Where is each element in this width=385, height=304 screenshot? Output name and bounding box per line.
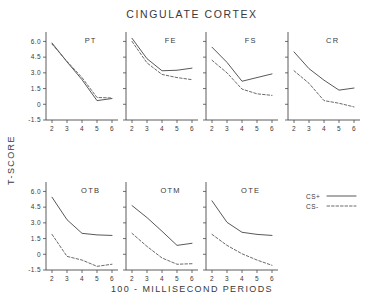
panel-axes: [46, 32, 118, 120]
x-tick-label: 4: [240, 125, 244, 132]
x-tick-label: 6: [110, 125, 114, 132]
panel-axes: [46, 182, 118, 270]
x-axis-label: 100 - MILLISECOND PERIODS: [111, 284, 273, 294]
series-line-CSplus: [132, 206, 192, 246]
x-tick-label: 4: [322, 125, 326, 132]
x-tick-label: 3: [145, 275, 149, 282]
y-tick-label: 3.0: [31, 69, 41, 76]
x-tick-label: 6: [110, 275, 114, 282]
panel-title: PT: [85, 36, 97, 45]
x-tick-label: 6: [190, 125, 194, 132]
x-tick-label: 2: [50, 125, 54, 132]
x-tick-label: 6: [270, 125, 274, 132]
x-tick-label: 2: [130, 275, 134, 282]
y-tick-label: 6.0: [31, 38, 41, 45]
x-tick-label: 3: [65, 125, 69, 132]
legend-label: CS+: [306, 193, 320, 200]
chart-legend: CS+CS-: [306, 193, 356, 210]
panel-otb: -1.501.53.04.56.023456OTB: [28, 182, 118, 282]
y-tick-label: 4.5: [31, 203, 41, 210]
series-line-CSminus: [212, 234, 272, 265]
y-tick-label: 4.5: [31, 53, 41, 60]
series-line-CSplus: [52, 43, 112, 101]
x-tick-label: 3: [225, 125, 229, 132]
panel-axes: [126, 182, 198, 270]
x-tick-label: 3: [145, 125, 149, 132]
series-line-CSminus: [132, 41, 192, 79]
panel-axes: [288, 32, 360, 120]
y-tick-label: 6.0: [31, 188, 41, 195]
series-line-CSminus: [52, 234, 112, 266]
x-tick-label: 2: [210, 275, 214, 282]
y-tick-label: -1.5: [28, 116, 41, 123]
panel-title: OTM: [161, 186, 181, 195]
panel-title: CR: [326, 36, 339, 45]
panel-fs: 23456FS: [203, 32, 278, 132]
x-tick-label: 4: [160, 275, 164, 282]
panel-axes: [206, 32, 278, 120]
panel-title: FE: [165, 36, 177, 45]
series-line-CSplus: [52, 197, 112, 235]
x-tick-label: 5: [337, 125, 341, 132]
x-tick-label: 2: [50, 275, 54, 282]
x-tick-label: 5: [255, 125, 259, 132]
panels-layer: -1.501.53.04.56.023456PT23456FE23456FS23…: [28, 32, 360, 282]
panel-title: OTE: [241, 186, 260, 195]
x-tick-label: 5: [175, 275, 179, 282]
y-axis-label: T-SCORE: [6, 135, 16, 185]
y-tick-label: 1.5: [31, 85, 41, 92]
series-line-CSminus: [132, 233, 192, 264]
y-tick-label: 1.5: [31, 235, 41, 242]
panel-fe: 23456FE: [123, 32, 198, 132]
x-tick-label: 4: [240, 275, 244, 282]
x-tick-label: 5: [95, 125, 99, 132]
x-tick-label: 2: [130, 125, 134, 132]
y-tick-label: -1.5: [28, 266, 41, 273]
panel-cr: 23456CR: [285, 32, 360, 132]
x-tick-label: 6: [190, 275, 194, 282]
figure-title: CINGULATE CORTEX: [126, 8, 257, 20]
x-tick-label: 4: [80, 125, 84, 132]
x-tick-label: 5: [175, 125, 179, 132]
panel-ote: 23456OTE: [203, 182, 278, 282]
x-tick-label: 3: [65, 275, 69, 282]
y-tick-label: 0: [37, 251, 41, 258]
x-tick-label: 5: [95, 275, 99, 282]
series-line-CSplus: [294, 52, 354, 90]
series-line-CSplus: [212, 201, 272, 236]
x-tick-label: 4: [160, 125, 164, 132]
y-tick-label: 0: [37, 101, 41, 108]
x-tick-label: 5: [255, 275, 259, 282]
series-line-CSplus: [212, 47, 272, 81]
panel-otm: 23456OTM: [123, 182, 198, 282]
series-line-CSminus: [212, 60, 272, 95]
x-tick-label: 3: [225, 275, 229, 282]
x-tick-label: 6: [352, 125, 356, 132]
x-tick-label: 6: [270, 275, 274, 282]
x-tick-label: 2: [292, 125, 296, 132]
panel-pt: -1.501.53.04.56.023456PT: [28, 32, 118, 132]
cingulate-cortex-figure: CINGULATE CORTEX 100 - MILLISECOND PERIO…: [0, 0, 385, 304]
x-tick-label: 4: [80, 275, 84, 282]
y-tick-label: 3.0: [31, 219, 41, 226]
panel-axes: [206, 182, 278, 270]
x-tick-label: 3: [307, 125, 311, 132]
x-tick-label: 2: [210, 125, 214, 132]
legend-label: CS-: [306, 203, 319, 210]
series-line-CSminus: [52, 44, 112, 98]
panel-title: OTB: [81, 186, 100, 195]
panel-title: FS: [245, 36, 257, 45]
